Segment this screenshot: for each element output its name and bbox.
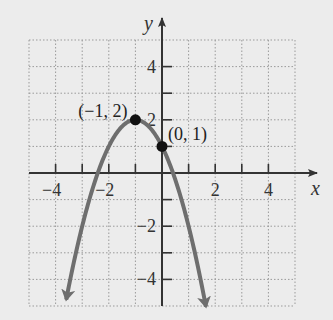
x-tick-label: 2 bbox=[211, 180, 220, 200]
point-label: (−1, 2) bbox=[78, 101, 127, 122]
x-tick-label: 4 bbox=[264, 180, 273, 200]
x-tick-label: −4 bbox=[42, 180, 61, 200]
y-tick-label: 4 bbox=[147, 57, 156, 77]
y-tick-label: −2 bbox=[137, 216, 156, 236]
parabola-chart: −4−22442−2−4 (−1, 2)(0, 1) x y bbox=[0, 0, 333, 320]
data-point bbox=[157, 141, 168, 152]
data-point bbox=[130, 114, 141, 125]
x-axis-label: x bbox=[310, 177, 320, 199]
y-tick-label: −4 bbox=[137, 269, 156, 289]
x-tick-label: −2 bbox=[95, 180, 114, 200]
parabola-left-branch bbox=[66, 120, 135, 300]
point-label: (0, 1) bbox=[168, 124, 207, 145]
y-axis-label: y bbox=[142, 12, 153, 35]
labeled-points: (−1, 2)(0, 1) bbox=[78, 101, 207, 152]
